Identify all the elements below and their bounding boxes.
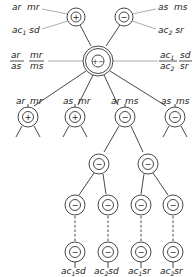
node-top-plus: + bbox=[67, 8, 85, 26]
minus-symbol: − bbox=[172, 113, 179, 122]
stub bbox=[16, 126, 22, 137]
stub bbox=[34, 126, 40, 137]
node-level5: − bbox=[163, 242, 183, 268]
node-level3-left: − bbox=[89, 154, 109, 174]
minus-symbol: − bbox=[105, 201, 112, 210]
label-as-mr: as mr bbox=[63, 96, 92, 106]
edge bbox=[153, 173, 168, 195]
label-ac1-sd: ac1sd bbox=[61, 266, 86, 277]
stub bbox=[163, 126, 169, 137]
fraction-num: ar bbox=[11, 50, 22, 60]
label-ac2-sd: ac2sd bbox=[94, 266, 119, 277]
edge bbox=[104, 126, 119, 152]
fraction-den: sr bbox=[180, 61, 190, 71]
node-level4: − bbox=[98, 195, 118, 215]
leader-line bbox=[132, 9, 156, 14]
minus-symbol: − bbox=[170, 248, 177, 257]
stub bbox=[181, 126, 187, 137]
label-ac2-sr: ac2sr bbox=[160, 266, 184, 277]
fraction-den: as bbox=[11, 61, 22, 71]
node-level5: − bbox=[131, 242, 151, 268]
plus-minus-symbol: +− bbox=[92, 58, 104, 66]
plus-symbol: + bbox=[73, 13, 80, 22]
label-ac2-sr: ac2sr bbox=[158, 25, 185, 36]
node-center: +− bbox=[83, 46, 113, 76]
stub bbox=[63, 126, 69, 137]
minus-symbol: − bbox=[138, 201, 145, 210]
minus-symbol: − bbox=[122, 113, 129, 122]
node-level2-ar-mr: + bbox=[18, 107, 38, 127]
edge bbox=[106, 25, 120, 46]
minus-symbol: − bbox=[105, 248, 112, 257]
fraction-num: sd bbox=[180, 50, 191, 60]
right-fraction-label: ac1 ac2 sd sr bbox=[159, 50, 192, 72]
node-level4: − bbox=[65, 195, 85, 215]
node-level2-as-ms: − bbox=[165, 107, 185, 127]
node-level4: − bbox=[131, 195, 151, 215]
minus-symbol: − bbox=[72, 248, 79, 257]
node-level2-as-mr: + bbox=[65, 107, 85, 127]
node-level5: − bbox=[98, 242, 118, 268]
minus-symbol: − bbox=[96, 160, 103, 169]
left-fraction-label: ar as mr ms bbox=[10, 50, 44, 71]
plus-symbol: + bbox=[72, 113, 79, 122]
minus-symbol: − bbox=[72, 201, 79, 210]
minus-symbol: − bbox=[138, 248, 145, 257]
edge bbox=[131, 126, 143, 152]
edge bbox=[79, 173, 94, 195]
fraction-num: mr bbox=[30, 50, 44, 60]
leader-line bbox=[132, 21, 156, 29]
node-level2-ar-ms: − bbox=[115, 107, 135, 127]
edge bbox=[80, 25, 91, 46]
minus-symbol: − bbox=[170, 201, 177, 210]
label-as-ms: as ms bbox=[158, 2, 188, 12]
node-level5: − bbox=[65, 242, 85, 268]
minus-symbol: − bbox=[121, 13, 128, 22]
label-ar-mr: ar mr bbox=[16, 96, 44, 106]
edge bbox=[103, 174, 106, 194]
fraction-den: ac2 bbox=[160, 61, 174, 72]
fraction-den: ms bbox=[30, 61, 44, 71]
fraction-num: ac1 bbox=[160, 50, 174, 61]
tree-diagram: ar mr ac1sd as ms ac2sr + − ar as mr ms … bbox=[0, 0, 196, 277]
leader-line bbox=[42, 9, 68, 14]
stub bbox=[81, 126, 87, 137]
node-level4: − bbox=[163, 195, 183, 215]
label-ac1-sd: ac1sd bbox=[12, 25, 40, 36]
node-top-minus: − bbox=[115, 8, 133, 26]
edge bbox=[141, 174, 144, 194]
leader-line bbox=[42, 21, 68, 29]
minus-symbol: − bbox=[145, 160, 152, 169]
label-ac1-sr: ac1sr bbox=[128, 266, 152, 277]
node-level3-right: − bbox=[138, 154, 158, 174]
label-ar-mr: ar mr bbox=[12, 2, 41, 12]
plus-symbol: + bbox=[25, 113, 32, 122]
